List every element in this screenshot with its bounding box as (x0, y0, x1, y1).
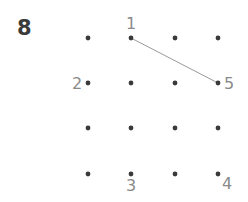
grid-dot (129, 126, 134, 131)
grid-dot (173, 172, 178, 177)
point-label: 5 (224, 74, 234, 93)
grid-dot (173, 36, 178, 41)
grid-dot (86, 172, 91, 177)
grid-dot (216, 126, 221, 131)
grid-dot (86, 36, 91, 41)
point-label: 4 (222, 174, 232, 193)
point-label: 2 (72, 74, 82, 93)
grid-dot (173, 81, 178, 86)
grid-dot (129, 36, 134, 41)
connecting-line (131, 38, 218, 83)
grid-dot (86, 126, 91, 131)
grid-dot (216, 36, 221, 41)
grid-dot (216, 172, 221, 177)
point-label: 1 (126, 14, 136, 33)
grid-dot (216, 81, 221, 86)
grid-dot (129, 81, 134, 86)
grid-dot (173, 126, 178, 131)
grid-dot (86, 81, 91, 86)
dot-grid (0, 0, 248, 202)
point-label: 3 (126, 176, 136, 195)
